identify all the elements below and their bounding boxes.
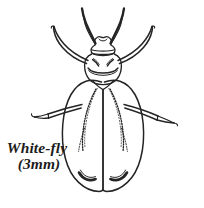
left-forewing xyxy=(62,80,103,191)
left-front-leg xyxy=(51,26,88,63)
right-front-leg xyxy=(118,26,155,63)
right-antenna xyxy=(111,9,125,45)
left-antenna xyxy=(82,9,96,45)
figure-caption: White-fly (3mm) xyxy=(3,140,71,172)
right-forewing xyxy=(103,80,144,191)
insect-line-drawing xyxy=(0,0,204,208)
head xyxy=(91,37,115,56)
caption-species-name: White-fly xyxy=(3,140,71,156)
caption-size: (3mm) xyxy=(3,156,71,172)
right-middle-leg xyxy=(124,105,177,126)
thorax xyxy=(85,54,122,89)
whitefly-illustration: White-fly (3mm) xyxy=(0,0,204,208)
left-middle-leg xyxy=(31,105,82,119)
